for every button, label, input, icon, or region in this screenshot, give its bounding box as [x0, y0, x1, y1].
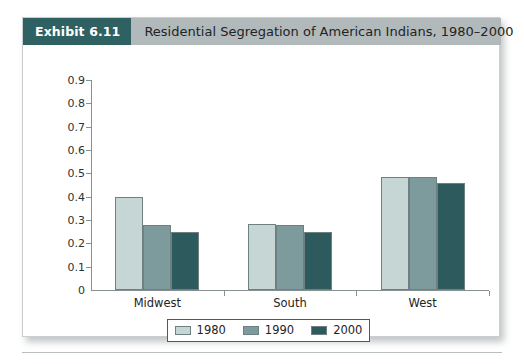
bar-south-1990 [276, 225, 304, 290]
x-axis-group-label: South [273, 296, 306, 310]
y-axis-tick-mark [86, 220, 91, 221]
exhibit-badge: Exhibit 6.11 [23, 18, 131, 45]
y-axis-tick-mark [86, 267, 91, 268]
x-axis-group-label: Midwest [134, 296, 181, 310]
bar-south-1980 [248, 224, 276, 291]
y-axis-tick-mark [86, 127, 91, 128]
legend-entry-1990: 1990 [243, 325, 294, 337]
x-axis-group-label: West [409, 296, 437, 310]
y-axis-tick-mark [86, 80, 91, 81]
bar-midwest-1990 [143, 225, 171, 290]
bar-west-1990 [409, 177, 437, 290]
legend-entry-2000: 2000 [311, 325, 362, 337]
x-axis-tick-mark [356, 291, 357, 296]
x-axis-tick-mark [489, 291, 490, 296]
legend-label: 2000 [333, 325, 362, 337]
y-axis-tick-mark [86, 173, 91, 174]
exhibit-card: Exhibit 6.11 Residential Segregation of … [22, 17, 500, 337]
bar-west-1980 [381, 177, 409, 290]
page-divider-rule [22, 352, 502, 353]
legend-label: 1990 [265, 325, 294, 337]
legend-label: 1980 [197, 325, 226, 337]
x-axis-tick-mark [224, 291, 225, 296]
legend-swatch-icon [243, 326, 259, 335]
chart-legend: 198019902000 [167, 319, 370, 342]
bars-layer [23, 45, 501, 337]
y-axis-tick-mark [86, 103, 91, 104]
bar-west-2000 [437, 183, 465, 290]
y-axis-tick-mark [86, 243, 91, 244]
legend-swatch-icon [311, 326, 327, 335]
chart-plot-area: 0.90.80.70.60.50.40.30.20.10 19801990200… [23, 45, 501, 337]
legend-swatch-icon [175, 326, 191, 335]
y-axis-tick-mark [86, 150, 91, 151]
y-axis-tick-mark [86, 197, 91, 198]
bar-midwest-2000 [171, 232, 199, 290]
exhibit-title: Residential Segregation of American Indi… [131, 18, 513, 45]
bar-midwest-1980 [115, 197, 143, 290]
legend-entry-1980: 1980 [175, 325, 226, 337]
exhibit-header: Exhibit 6.11 Residential Segregation of … [23, 18, 501, 45]
bar-south-2000 [304, 232, 332, 290]
